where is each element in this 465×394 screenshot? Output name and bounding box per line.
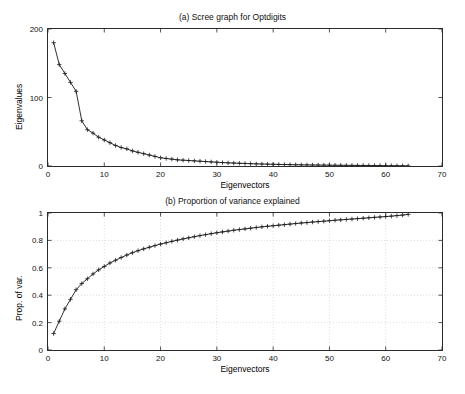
panel-b-xlabel: Eigenvectors bbox=[47, 364, 443, 374]
panel-scree-graph: (a) Scree graph for Optdigits Eigenvecto… bbox=[0, 0, 465, 196]
y-tick-label: 1 bbox=[19, 209, 43, 218]
variance-explained-series bbox=[48, 213, 442, 350]
x-tick-label: 60 bbox=[381, 354, 390, 363]
x-tick-label: 0 bbox=[46, 354, 50, 363]
scree-graph-series bbox=[48, 29, 442, 166]
x-tick-label: 10 bbox=[100, 170, 109, 179]
y-tick-label: 0.4 bbox=[19, 291, 43, 300]
y-tick-label: 0 bbox=[19, 346, 43, 355]
x-tick-label: 20 bbox=[156, 354, 165, 363]
x-tick-label: 40 bbox=[269, 354, 278, 363]
x-tick-label: 40 bbox=[269, 170, 278, 179]
x-tick-label: 10 bbox=[100, 354, 109, 363]
panel-a-ylabel: Eigenvalues bbox=[14, 84, 24, 130]
x-tick-label: 60 bbox=[381, 170, 390, 179]
x-tick-label: 70 bbox=[438, 354, 447, 363]
plot-area-b bbox=[47, 212, 443, 351]
x-tick-label: 0 bbox=[46, 170, 50, 179]
x-tick-label: 30 bbox=[212, 170, 221, 179]
x-tick-label: 70 bbox=[438, 170, 447, 179]
y-tick-label: 0.6 bbox=[19, 263, 43, 272]
y-tick-label: 0.2 bbox=[19, 318, 43, 327]
y-tick-label: 100 bbox=[19, 93, 43, 102]
x-tick-label: 50 bbox=[325, 354, 334, 363]
panel-b-title: (b) Proportion of variance explained bbox=[0, 196, 465, 206]
y-tick-label: 0.8 bbox=[19, 236, 43, 245]
plot-area-a bbox=[47, 28, 443, 167]
y-tick-label: 0 bbox=[19, 162, 43, 171]
panel-a-title: (a) Scree graph for Optdigits bbox=[0, 12, 465, 22]
y-tick-label: 200 bbox=[19, 25, 43, 34]
panel-a-xlabel: Eigenvectors bbox=[47, 180, 443, 190]
x-tick-label: 20 bbox=[156, 170, 165, 179]
figure-root: (a) Scree graph for Optdigits Eigenvecto… bbox=[0, 0, 465, 394]
x-tick-label: 30 bbox=[212, 354, 221, 363]
panel-variance-explained: (b) Proportion of variance explained Eig… bbox=[0, 196, 465, 394]
x-tick-label: 50 bbox=[325, 170, 334, 179]
